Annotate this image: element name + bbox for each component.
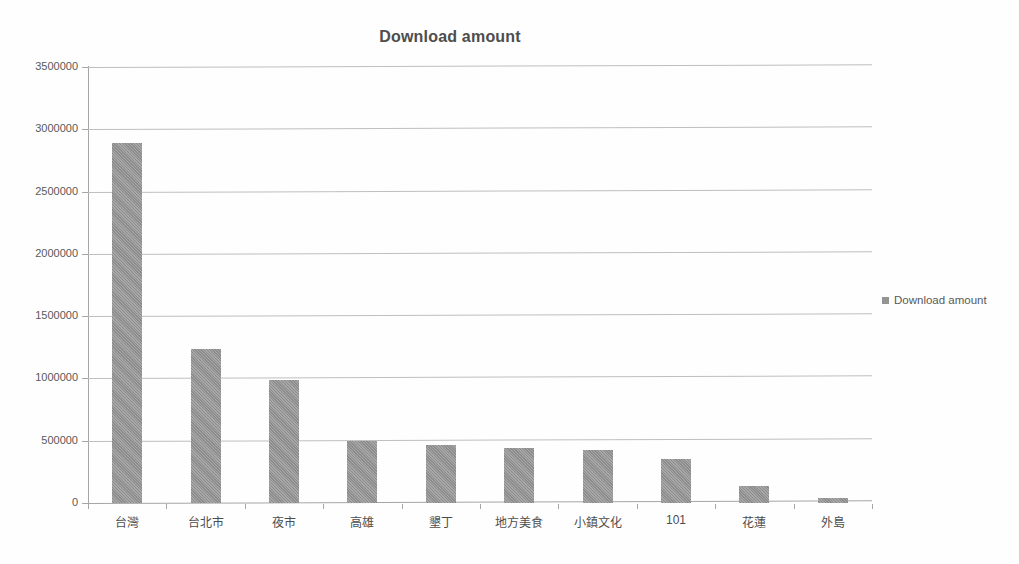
bar bbox=[504, 448, 534, 503]
x-axis-tick-label: 花蓮 bbox=[742, 513, 766, 530]
x-axis-tick bbox=[794, 504, 795, 509]
x-axis-tick-label: 台灣 bbox=[115, 513, 139, 530]
plot-area bbox=[88, 67, 872, 503]
x-axis-tick bbox=[637, 504, 638, 509]
x-axis-tick-label: 高雄 bbox=[350, 513, 374, 530]
x-axis-tick bbox=[402, 504, 403, 509]
x-axis-tick-label: 小鎮文化 bbox=[574, 513, 622, 530]
x-axis-tick bbox=[872, 504, 873, 509]
x-axis-tick-label: 外島 bbox=[821, 513, 845, 530]
gridline bbox=[88, 127, 872, 131]
y-axis-tick-label: 1500000 bbox=[4, 309, 78, 321]
x-axis-tick bbox=[480, 504, 481, 509]
bar bbox=[818, 498, 848, 503]
gridline bbox=[88, 251, 872, 255]
y-axis-tick-label: 2000000 bbox=[4, 247, 78, 259]
legend-square-marker bbox=[882, 297, 889, 304]
bar bbox=[739, 486, 769, 503]
bar bbox=[269, 380, 299, 503]
x-axis-tick-label: 地方美食 bbox=[495, 513, 543, 530]
x-axis-tick bbox=[245, 504, 246, 509]
y-axis-tick-label: 3500000 bbox=[4, 60, 78, 72]
bar bbox=[661, 459, 691, 503]
bar bbox=[347, 441, 377, 503]
x-axis-tick bbox=[88, 504, 89, 509]
x-axis-tick-label: 台北市 bbox=[188, 513, 224, 530]
x-axis-tick-label: 夜市 bbox=[272, 513, 296, 530]
gridline bbox=[88, 189, 872, 193]
chart-legend: Download amount bbox=[882, 294, 987, 306]
y-axis-tick-label: 3000000 bbox=[4, 122, 78, 134]
bar bbox=[191, 349, 221, 503]
y-axis-tick-label: 1000000 bbox=[4, 371, 78, 383]
x-axis-tick-label: 101 bbox=[666, 513, 686, 527]
x-axis-tick bbox=[323, 504, 324, 509]
bar-chart: Download amount 050000010000001500000200… bbox=[0, 0, 1019, 564]
bar bbox=[426, 445, 456, 503]
bar bbox=[583, 450, 613, 503]
x-axis-tick bbox=[715, 504, 716, 509]
y-axis-tick-label: 2500000 bbox=[4, 185, 78, 197]
legend-label: Download amount bbox=[894, 294, 987, 306]
gridline bbox=[88, 64, 872, 68]
chart-title: Download amount bbox=[0, 28, 900, 46]
x-axis-tick-label: 墾丁 bbox=[429, 513, 453, 530]
y-axis-tick-label: 500000 bbox=[4, 434, 78, 446]
x-axis-tick bbox=[558, 504, 559, 509]
gridline bbox=[88, 313, 872, 317]
y-axis-tick-label: 0 bbox=[4, 496, 78, 508]
x-axis-tick bbox=[166, 504, 167, 509]
bar bbox=[112, 143, 142, 503]
